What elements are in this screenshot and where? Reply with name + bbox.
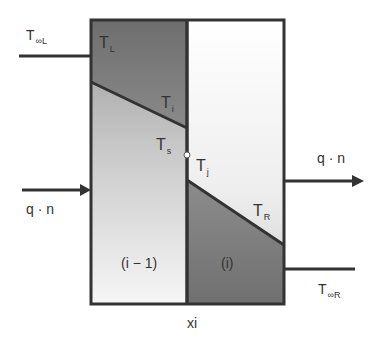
label-t-i: Ti [161, 95, 174, 111]
heat-flux-arrow-left [22, 184, 91, 196]
label-t-inf-left: T∞L [26, 28, 47, 42]
label-element-left: (i − 1) [121, 256, 157, 270]
label-t-right: TR [253, 203, 270, 219]
heat-flux-arrow-right [284, 175, 364, 187]
label-t-left: TL [99, 35, 115, 51]
label-interface: xi [187, 316, 197, 330]
label-heat-flux-right: q · n [317, 151, 345, 165]
label-element-right: (i) [221, 256, 233, 270]
label-t-inf-right: T∞R [318, 282, 340, 296]
label-t-s: Ts [156, 137, 171, 153]
label-heat-flux-left: q · n [26, 202, 54, 216]
label-t-j: Tj [196, 158, 209, 174]
interface-point [184, 152, 190, 158]
